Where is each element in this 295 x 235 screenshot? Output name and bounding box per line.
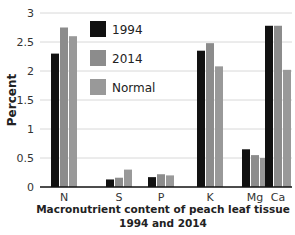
y-tick-label: 2.5 <box>17 36 35 49</box>
y-tick-label: 1.5 <box>17 94 35 107</box>
bar-Mg-2014 <box>251 155 259 187</box>
bars <box>51 26 291 187</box>
bar-P-Normal <box>166 175 174 187</box>
y-tick-label: 3 <box>27 7 34 20</box>
bar-Mg-1994 <box>242 149 250 187</box>
bar-chart: 00.511.522.53 NSPKMgCa Percent Macronutr… <box>0 0 295 235</box>
legend-swatch-2014 <box>90 50 106 66</box>
bar-N-1994 <box>51 54 59 187</box>
y-tick-label: 0.5 <box>17 152 35 165</box>
legend: 19942014Normal <box>90 21 155 95</box>
bar-Ca-Normal <box>283 70 291 187</box>
y-axis-label: Percent <box>5 74 19 127</box>
bar-N-2014 <box>60 28 68 188</box>
bar-K-Normal <box>215 66 223 187</box>
bar-Ca-2014 <box>274 26 282 187</box>
legend-swatch-1994 <box>90 21 106 37</box>
bar-K-1994 <box>197 51 205 187</box>
bar-S-1994 <box>106 179 114 187</box>
bar-S-Normal <box>124 170 132 187</box>
y-axis-ticks: 00.511.522.53 <box>17 7 35 194</box>
legend-label: 2014 <box>112 52 143 66</box>
x-axis-title-line1: Macronutrient content of peach leaf tiss… <box>36 203 290 215</box>
bar-Ca-1994 <box>265 26 273 187</box>
x-axis-title-line2: 1994 and 2014 <box>119 217 207 229</box>
bar-P-1994 <box>148 177 156 187</box>
bar-K-2014 <box>206 43 214 187</box>
legend-swatch-Normal <box>90 79 106 95</box>
bar-N-Normal <box>69 36 77 187</box>
y-tick-label: 2 <box>27 65 34 78</box>
legend-label: Normal <box>112 81 155 95</box>
bar-P-2014 <box>157 174 165 187</box>
legend-label: 1994 <box>112 23 143 37</box>
y-tick-label: 0 <box>27 181 34 194</box>
y-tick-label: 1 <box>27 123 34 136</box>
gridlines <box>40 13 292 158</box>
bar-S-2014 <box>115 178 123 187</box>
